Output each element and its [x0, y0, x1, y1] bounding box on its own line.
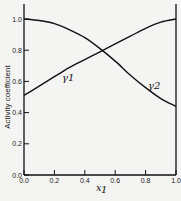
axes: 0.00.20.40.60.81.00.00.20.40.60.81.0: [12, 4, 181, 184]
curve-gamma1: [24, 19, 176, 106]
y-tick-label: 0.4: [12, 109, 22, 116]
svg-text:1: 1: [101, 184, 107, 195]
x-tick-label: 0.4: [80, 177, 90, 184]
gamma1-label: γ1: [62, 72, 74, 83]
x-tick-label: 1.0: [171, 177, 181, 184]
y-tick-label: 0.2: [12, 140, 22, 147]
x-axis-label: x 1: [96, 182, 107, 195]
activity-coefficient-chart: 0.00.20.40.60.81.00.00.20.40.60.81.0 Act…: [0, 0, 181, 201]
y-axis-label: Activity coefficient: [3, 65, 12, 129]
x-tick-label: 0.6: [110, 177, 120, 184]
y-tick-label: 0.8: [12, 47, 22, 54]
y-tick-label: 0.6: [12, 78, 22, 85]
y-tick-label: 1.0: [12, 16, 22, 23]
x-tick-label: 0.2: [50, 177, 60, 184]
curves: [24, 19, 176, 106]
gamma2-label: γ2: [148, 80, 160, 91]
x-tick-label: 0.8: [141, 177, 151, 184]
x-tick-label: 0.0: [19, 177, 29, 184]
